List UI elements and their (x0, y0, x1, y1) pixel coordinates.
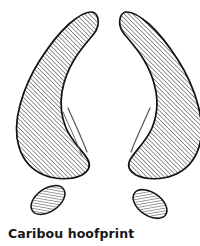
left-dewclaw-mark (26, 180, 70, 220)
caribou-hoofprint-figure: Caribou hoofprint (0, 0, 200, 246)
hoofprint-illustration (0, 0, 200, 220)
right-dewclaw-mark (128, 184, 172, 220)
right-hoof-cleat (120, 12, 200, 179)
figure-caption: Caribou hoofprint (8, 226, 194, 241)
left-hoof-cleat (16, 12, 98, 179)
